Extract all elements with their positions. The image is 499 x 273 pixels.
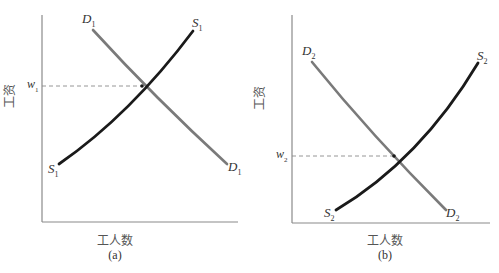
- panel-a-supply-curve: [59, 31, 193, 164]
- panel-a-demand-label-top: D1: [81, 11, 95, 29]
- panel-a-y-axis-label: 工资: [3, 84, 17, 108]
- panel-a: D1 S1 S1 D1 w1 工资 工人数 (a): [3, 11, 241, 262]
- panel-a-equilibrium-point: [140, 84, 144, 88]
- panel-b-y-axis-label: 工资: [253, 86, 267, 110]
- panel-a-demand-label-bottom: D1: [227, 159, 241, 177]
- panel-a-demand-curve: [93, 30, 227, 164]
- panel-a-caption: (a): [108, 248, 121, 262]
- panel-b-x-axis-label: 工人数: [367, 233, 403, 248]
- panel-a-x-axis-label: 工人数: [97, 233, 133, 248]
- panel-b-equilibrium-point: [392, 154, 396, 158]
- panel-b-demand-label-bottom: D2: [445, 205, 459, 223]
- panel-b-supply-label-bottom: S2: [324, 205, 335, 223]
- labor-market-figure: D1 S1 S1 D1 w1 工资 工人数 (a) D2 S2 S2 D2 w2…: [0, 0, 499, 273]
- panel-a-supply-label-bottom: S1: [48, 161, 59, 179]
- panel-b-supply-curve: [336, 63, 478, 210]
- panel-b-demand-label-top: D2: [301, 43, 315, 61]
- panel-b-caption: (b): [378, 248, 392, 262]
- panel-a-wage-label: w1: [27, 77, 39, 94]
- panel-b-wage-label: w2: [276, 147, 288, 164]
- panel-b: D2 S2 S2 D2 w2 工资 工人数 (b): [253, 15, 490, 262]
